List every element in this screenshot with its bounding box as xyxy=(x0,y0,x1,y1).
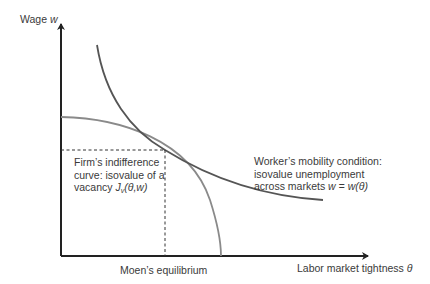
x-axis-label: Labor market tightness θ xyxy=(297,262,412,274)
worker-label-prefix: across markets xyxy=(254,180,328,192)
firm-curve-label: Firm’s indifference curve: isovalue of a… xyxy=(74,156,164,198)
x-axis-label-var: θ xyxy=(407,262,413,274)
firm-label-line1: Firm’s indifference xyxy=(74,156,164,169)
y-axis-label-text: Wage xyxy=(20,13,50,25)
diagram-canvas xyxy=(0,0,430,284)
x-axis-label-text: Labor market tightness xyxy=(297,262,407,274)
y-axis-label-var: w xyxy=(50,13,58,25)
firm-label-line3: vacancy Jv(θ,w) xyxy=(74,181,164,198)
worker-label-formula: w = w(θ) xyxy=(328,180,368,192)
y-axis-label: Wage w xyxy=(20,13,58,25)
worker-curve-label: Worker’s mobility condition: isovalue un… xyxy=(254,155,382,193)
firm-label-line2: curve: isovalue of a xyxy=(74,169,164,182)
firm-label-args: (θ,w) xyxy=(124,181,147,193)
firm-label-prefix: vacancy xyxy=(74,181,115,193)
worker-label-line3: across markets w = w(θ) xyxy=(254,180,382,193)
worker-label-line2: isovalue unemployment xyxy=(254,168,382,181)
worker-label-line1: Worker’s mobility condition: xyxy=(254,155,382,168)
equilibrium-label: Moen’s equilibrium xyxy=(120,264,207,276)
